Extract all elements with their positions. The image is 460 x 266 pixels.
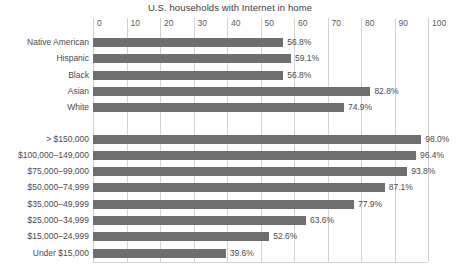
x-tick-mark bbox=[328, 18, 329, 30]
bar-value-label: 98.0% bbox=[425, 134, 449, 145]
bar-value-label: 39.6% bbox=[230, 248, 254, 259]
category-axis-labels: Native AmericanHispanicBlackAsianWhite> … bbox=[0, 30, 89, 262]
x-tick-mark bbox=[261, 18, 262, 30]
bar-value-label: 63.6% bbox=[310, 215, 334, 226]
bar bbox=[93, 249, 226, 258]
category-label: $15,000–24,999 bbox=[1, 231, 89, 242]
x-tick-label: 60 bbox=[298, 18, 307, 29]
x-tick-mark bbox=[361, 18, 362, 30]
x-tick-mark bbox=[227, 18, 228, 30]
bar bbox=[93, 216, 306, 225]
bar-chart: U.S. households with Internet in home 01… bbox=[0, 0, 460, 266]
bar bbox=[93, 38, 283, 47]
bar bbox=[93, 232, 269, 241]
x-tick-mark bbox=[93, 18, 94, 30]
x-tick-label: 20 bbox=[164, 18, 173, 29]
bar bbox=[93, 54, 291, 63]
bar bbox=[93, 71, 283, 80]
plot-area: 56.8%59.1%56.8%82.8%74.9%98.0%96.4%93.8%… bbox=[93, 30, 428, 262]
category-label: > $150,000 bbox=[1, 134, 89, 145]
bar-row: 87.1% bbox=[93, 183, 428, 192]
gridline bbox=[127, 30, 128, 262]
bar-row: 98.0% bbox=[93, 135, 428, 144]
x-tick-label: 70 bbox=[332, 18, 341, 29]
gridline bbox=[361, 30, 362, 262]
x-tick-mark bbox=[294, 18, 295, 30]
category-label: White bbox=[1, 102, 89, 113]
gridline bbox=[261, 30, 262, 262]
category-label: Under $15,000 bbox=[1, 248, 89, 259]
bar-value-label: 82.8% bbox=[374, 86, 398, 97]
category-label: $50,000–74,999 bbox=[1, 182, 89, 193]
chart-title: U.S. households with Internet in home bbox=[0, 2, 460, 13]
category-label: $75,000–99,000 bbox=[1, 166, 89, 177]
x-axis-ticks: 0102030405060708090100 bbox=[93, 18, 453, 30]
category-label: Black bbox=[1, 70, 89, 81]
bar-value-label: 96.4% bbox=[420, 150, 444, 161]
bar-value-label: 56.8% bbox=[287, 70, 311, 81]
bar-row: 77.9% bbox=[93, 200, 428, 209]
bar-row: 39.6% bbox=[93, 249, 428, 258]
x-tick-label: 0 bbox=[97, 18, 102, 29]
bar bbox=[93, 167, 407, 176]
bar-value-label: 74.9% bbox=[348, 102, 372, 113]
gridline bbox=[294, 30, 295, 262]
bar bbox=[93, 183, 385, 192]
gridline bbox=[328, 30, 329, 262]
x-tick-label: 30 bbox=[198, 18, 207, 29]
bar-value-label: 87.1% bbox=[389, 182, 413, 193]
bar-row: 63.6% bbox=[93, 216, 428, 225]
bar-value-label: 59.1% bbox=[295, 53, 319, 64]
bar bbox=[93, 87, 370, 96]
bar bbox=[93, 103, 344, 112]
bar-row: 56.8% bbox=[93, 38, 428, 47]
gridline bbox=[93, 30, 94, 262]
x-tick-label: 40 bbox=[231, 18, 240, 29]
axis-baseline bbox=[93, 262, 428, 263]
x-tick-mark bbox=[160, 18, 161, 30]
bar-value-label: 52.6% bbox=[273, 231, 297, 242]
gridline bbox=[428, 30, 429, 262]
x-tick-mark bbox=[127, 18, 128, 30]
x-tick-mark bbox=[428, 18, 429, 30]
x-tick-mark bbox=[395, 18, 396, 30]
bar bbox=[93, 135, 421, 144]
category-label: Hispanic bbox=[1, 53, 89, 64]
bar-value-label: 77.9% bbox=[358, 199, 382, 210]
gridline bbox=[395, 30, 396, 262]
x-tick-label: 80 bbox=[365, 18, 374, 29]
gridline bbox=[194, 30, 195, 262]
bar-row: 59.1% bbox=[93, 54, 428, 63]
gridline bbox=[227, 30, 228, 262]
category-label: $25,000–34,999 bbox=[1, 215, 89, 226]
bar-value-label: 93.8% bbox=[411, 166, 435, 177]
category-label: Asian bbox=[1, 86, 89, 97]
bar-row: 56.8% bbox=[93, 71, 428, 80]
x-tick-label: 100 bbox=[432, 18, 446, 29]
bar-row: 82.8% bbox=[93, 87, 428, 96]
gridline bbox=[160, 30, 161, 262]
x-tick-label: 50 bbox=[265, 18, 274, 29]
bar-value-label: 56.8% bbox=[287, 37, 311, 48]
bar bbox=[93, 200, 354, 209]
bar-row: 93.8% bbox=[93, 167, 428, 176]
bar-row: 96.4% bbox=[93, 151, 428, 160]
x-tick-mark bbox=[194, 18, 195, 30]
x-tick-label: 90 bbox=[399, 18, 408, 29]
category-label: $100,000–149,000 bbox=[1, 150, 89, 161]
category-label: Native American bbox=[1, 37, 89, 48]
bar-row: 74.9% bbox=[93, 103, 428, 112]
bar bbox=[93, 151, 416, 160]
category-label: $35,000–49,999 bbox=[1, 199, 89, 210]
x-tick-label: 10 bbox=[131, 18, 140, 29]
bar-row: 52.6% bbox=[93, 232, 428, 241]
